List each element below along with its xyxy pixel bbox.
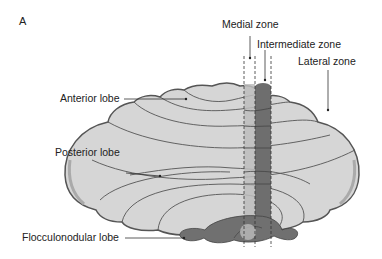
medial-zone-band	[244, 84, 255, 234]
intermediate-zone-label: Intermediate zone	[257, 39, 341, 50]
lateral-zone-label: Lateral zone	[298, 56, 356, 67]
flocculonodular-lobe-label: Flocculonodular lobe	[22, 232, 119, 243]
panel-label: A	[19, 16, 26, 27]
anterior-lobe-label: Anterior lobe	[60, 93, 120, 104]
posterior-lobe-label: Posterior lobe	[55, 147, 120, 158]
intermediate-zone-band	[255, 83, 271, 232]
cerebellum-body	[65, 83, 359, 236]
medial-zone-label: Medial zone	[222, 19, 279, 30]
